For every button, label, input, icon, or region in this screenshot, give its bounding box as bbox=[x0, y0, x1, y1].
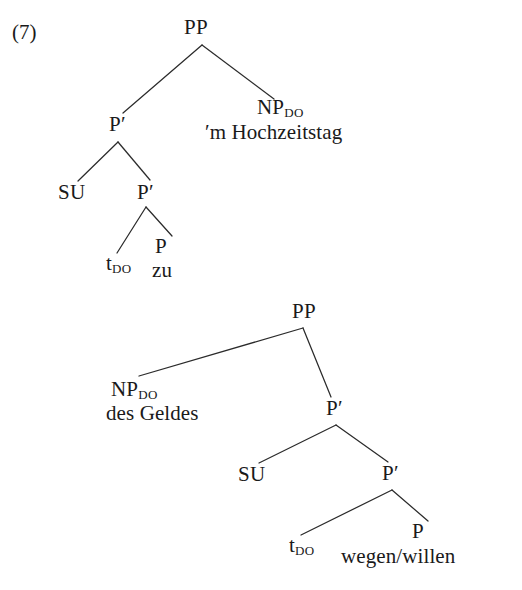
t2-node-su: SU bbox=[238, 464, 265, 485]
t1-word-p-head: zu bbox=[152, 260, 172, 281]
t2-word-p-head: wegen/willen bbox=[341, 546, 455, 567]
branch-t1-pbar-pbar bbox=[118, 142, 150, 180]
branch-t2-pbar-p bbox=[392, 490, 428, 521]
branch-t2-pp-npdo bbox=[139, 328, 303, 376]
t1-node-p-head: P bbox=[155, 236, 167, 257]
branch-t1-pbar-su bbox=[78, 142, 118, 181]
t1-node-pbar-upper: P′ bbox=[109, 114, 126, 135]
t2-trace-subscript: DO bbox=[295, 543, 315, 558]
t2-np-do-subscript: DO bbox=[138, 387, 158, 402]
t2-node-trace-do: tDO bbox=[289, 535, 315, 557]
t1-trace-subscript: DO bbox=[112, 261, 132, 276]
branch-t2-pbar-su bbox=[259, 425, 336, 463]
branch-t1-pp-pbar bbox=[123, 45, 202, 113]
t1-np-do-label: NP bbox=[257, 95, 284, 119]
t1-node-trace-do: tDO bbox=[106, 253, 132, 275]
example-number: (7) bbox=[12, 20, 37, 45]
t1-word-np-do: ′m Hochzeitstag bbox=[205, 122, 342, 143]
t1-node-su: SU bbox=[58, 182, 85, 203]
t1-node-pbar-lower: P′ bbox=[137, 182, 154, 203]
t2-node-pp: PP bbox=[292, 301, 316, 322]
t1-node-np-do: NPDO bbox=[257, 97, 304, 119]
figure-syntax-trees: (7) PP P′ NPDO ′m Hochzeitstag SU P′ tDO… bbox=[0, 0, 522, 590]
tree-branch-lines bbox=[0, 0, 522, 590]
t2-node-pbar-lower: P′ bbox=[382, 463, 399, 484]
branch-t2-pbar-trace bbox=[301, 490, 392, 535]
t2-node-np-do: NPDO bbox=[111, 379, 158, 401]
branch-t1-pbar-p bbox=[146, 207, 172, 236]
branch-t1-pbar-trace bbox=[117, 207, 146, 253]
t1-np-do-subscript: DO bbox=[284, 105, 304, 120]
t1-node-pp: PP bbox=[184, 17, 208, 38]
branch-t2-pbar-pbar bbox=[336, 425, 388, 462]
branch-t2-pp-pbar bbox=[303, 328, 331, 397]
t2-word-np-do: des Geldes bbox=[106, 403, 199, 424]
t2-np-do-label: NP bbox=[111, 377, 138, 401]
branch-t1-pp-npdo bbox=[202, 45, 274, 99]
t2-node-pbar-upper: P′ bbox=[326, 398, 343, 419]
t2-node-p-head: P bbox=[412, 521, 424, 542]
